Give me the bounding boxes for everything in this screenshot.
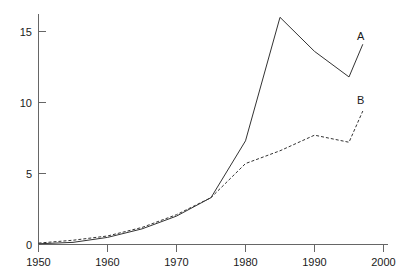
y-tick-label-0: 0 <box>26 239 32 251</box>
y-axis-ticks <box>39 32 46 174</box>
series-label-b: B <box>357 94 364 106</box>
x-axis-ticks <box>39 245 384 252</box>
chart-plot-area: 15 10 5 0 1950 1960 1970 1980 1990 2000 … <box>0 0 402 276</box>
y-tick-label-5: 5 <box>26 168 32 180</box>
x-tick-label-1980: 1980 <box>233 256 257 268</box>
x-axis-tick-labels: 1950 1960 1970 1980 1990 2000 <box>26 256 395 268</box>
series-line-a <box>39 17 363 243</box>
x-tick-label-1960: 1960 <box>95 256 119 268</box>
y-tick-label-15: 15 <box>20 26 32 38</box>
y-tick-label-10: 10 <box>20 97 32 109</box>
x-tick-label-1970: 1970 <box>164 256 188 268</box>
x-tick-label-1950: 1950 <box>26 256 50 268</box>
x-tick-label-1990: 1990 <box>302 256 326 268</box>
series-label-a: A <box>357 30 365 42</box>
series-line-b <box>39 111 363 243</box>
x-tick-label-2000: 2000 <box>371 256 395 268</box>
line-chart: 15 10 5 0 1950 1960 1970 1980 1990 2000 … <box>0 0 402 276</box>
y-axis-tick-labels: 15 10 5 0 <box>20 26 32 251</box>
